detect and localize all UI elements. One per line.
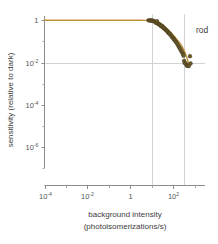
x-axis-title: background intensity (photoisomerization…	[84, 210, 167, 231]
x-tick-label-0: 10-4	[39, 191, 52, 201]
sensitivity-vs-background-intensity-chart: 110-210-410-6 10-410-21102 rod sensitivi…	[0, 0, 218, 244]
data-point	[189, 62, 193, 66]
y-axis-tick-labels: 110-210-410-6	[26, 16, 39, 152]
x-tick-label-2: 1	[128, 192, 132, 201]
fit-curve	[45, 20, 191, 65]
y-tick-label-3: 10-6	[26, 142, 39, 152]
x-tick-label-3: 102	[168, 191, 179, 201]
y-axis-title: sensitivity (relative to dark)	[6, 52, 15, 147]
y-tick-label-0: 1	[34, 16, 38, 25]
data-point-group	[147, 18, 193, 68]
y-tick-label-1: 10-2	[26, 58, 39, 68]
gridlines	[45, 14, 206, 185]
y-tick-label-2: 10-4	[26, 100, 39, 110]
axes	[45, 16, 206, 186]
x-tick-label-1: 10-2	[81, 191, 94, 201]
x-axis-ticks	[46, 186, 196, 190]
y-axis-title-text: sensitivity (relative to dark)	[6, 52, 15, 147]
data-point	[182, 54, 186, 58]
series-label-rod: rod	[196, 25, 209, 35]
chart-container: 110-210-410-6 10-410-21102 rod sensitivi…	[0, 0, 218, 244]
data-point	[188, 54, 192, 58]
x-axis-title-line1: background intensity	[88, 210, 161, 219]
x-axis-title-line2: (photoisomerizations/s)	[84, 222, 167, 231]
x-axis-tick-labels: 10-410-21102	[39, 191, 179, 201]
